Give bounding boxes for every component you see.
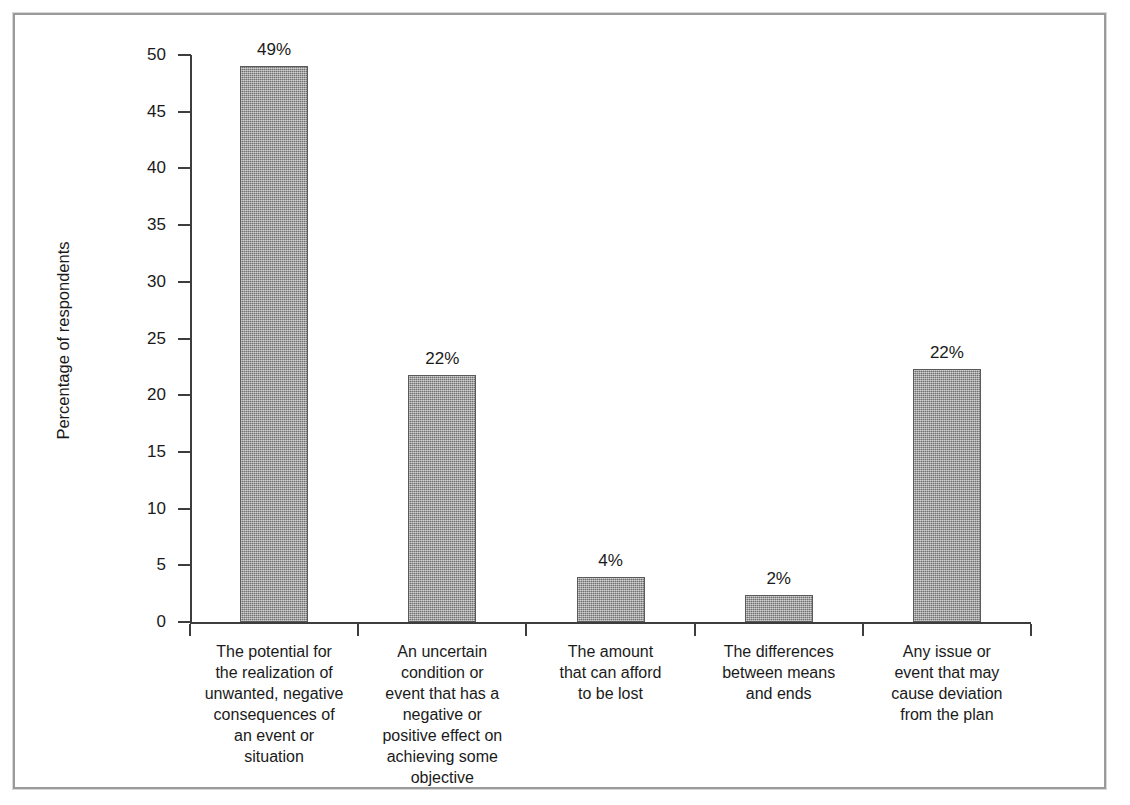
bar-value-label: 49%	[214, 41, 334, 59]
x-category-label: An uncertaincondition orevent that has a…	[362, 641, 522, 788]
x-category-label-line: and ends	[699, 683, 859, 704]
x-category-label: The potential forthe realization ofunwan…	[194, 641, 354, 767]
y-tick-mark	[178, 508, 191, 510]
x-category-label-line: the realization of	[194, 662, 354, 683]
x-category-label-line: The potential for	[194, 641, 354, 662]
x-category-label-line: event that may	[867, 662, 1027, 683]
x-category-label-line: An uncertain	[362, 641, 522, 662]
chart-page: Percentage of respondents 05101520253035…	[0, 0, 1130, 805]
x-category-label-line: an event or	[194, 725, 354, 746]
x-category-label-line: event that has a	[362, 683, 522, 704]
x-tick-mark	[189, 624, 191, 636]
y-tick-label-text: 0	[126, 613, 166, 630]
x-category-label-line: between means	[699, 662, 859, 683]
y-tick-label-text: 15	[126, 443, 166, 460]
y-tick-label-text: 45	[126, 103, 166, 120]
y-tick-label-text: 10	[126, 500, 166, 517]
y-tick-label: 20	[126, 386, 166, 403]
bar	[913, 369, 981, 622]
x-category-label: The differencesbetween meansand ends	[699, 641, 859, 704]
y-tick-label-text: 20	[126, 386, 166, 403]
y-tick-label: 5	[126, 556, 166, 573]
y-tick-label: 30	[126, 273, 166, 290]
x-category-label-line: consequences of	[194, 704, 354, 725]
x-category-label-line: The differences	[699, 641, 859, 662]
y-tick-label: 45	[126, 103, 166, 120]
x-category-label-line: objective	[362, 767, 522, 788]
y-tick-label: 10	[126, 500, 166, 517]
y-tick-mark	[178, 224, 191, 226]
x-category-label-line: Any issue or	[867, 641, 1027, 662]
y-tick-label: 25	[126, 330, 166, 347]
y-tick-label: 0	[126, 613, 166, 630]
x-category-label-line: cause deviation	[867, 683, 1027, 704]
bar-value-label: 22%	[382, 350, 502, 368]
bar-value-label: 4%	[551, 552, 671, 570]
y-tick-label: 35	[126, 216, 166, 233]
y-tick-label-text: 5	[126, 556, 166, 573]
y-tick-mark	[178, 54, 191, 56]
x-category-label-line: The amount	[530, 641, 690, 662]
x-category-label-line: situation	[194, 746, 354, 767]
y-tick-mark	[178, 564, 191, 566]
y-tick-mark	[178, 621, 191, 623]
y-tick-label: 15	[126, 443, 166, 460]
y-tick-label-text: 30	[126, 273, 166, 290]
bar	[408, 375, 476, 622]
bar-value-label: 2%	[719, 570, 839, 588]
y-tick-mark	[178, 111, 191, 113]
y-tick-label-text: 40	[126, 159, 166, 176]
x-tick-mark	[357, 624, 359, 636]
x-category-label-line: positive effect on	[362, 725, 522, 746]
x-category-label-line: negative or	[362, 704, 522, 725]
x-category-label-line: to be lost	[530, 683, 690, 704]
y-tick-label: 40	[126, 159, 166, 176]
bar-chart: Percentage of respondents 05101520253035…	[0, 0, 1130, 805]
bar	[240, 66, 308, 622]
bar	[745, 595, 813, 622]
bar	[577, 577, 645, 622]
x-category-label: Any issue orevent that maycause deviatio…	[867, 641, 1027, 725]
x-category-label-line: from the plan	[867, 704, 1027, 725]
y-tick-label-text: 35	[126, 216, 166, 233]
x-tick-mark	[1030, 624, 1032, 636]
y-tick-mark	[178, 281, 191, 283]
y-tick-mark	[178, 167, 191, 169]
x-category-label-line: achieving some	[362, 746, 522, 767]
y-axis-line	[190, 55, 192, 624]
x-tick-mark	[694, 624, 696, 636]
x-axis-line	[190, 622, 1031, 624]
x-category-label: The amountthat can affordto be lost	[530, 641, 690, 704]
y-tick-label: 50	[126, 46, 166, 63]
x-tick-mark	[862, 624, 864, 636]
y-tick-mark	[178, 338, 191, 340]
x-category-label-line: that can afford	[530, 662, 690, 683]
x-category-label-line: unwanted, negative	[194, 683, 354, 704]
y-tick-mark	[178, 451, 191, 453]
y-tick-mark	[178, 394, 191, 396]
bar-value-label: 22%	[887, 344, 1007, 362]
y-tick-label-text: 25	[126, 330, 166, 347]
y-axis-title: Percentage of respondents	[54, 216, 73, 466]
y-tick-label-text: 50	[126, 46, 166, 63]
x-tick-mark	[525, 624, 527, 636]
x-category-label-line: condition or	[362, 662, 522, 683]
